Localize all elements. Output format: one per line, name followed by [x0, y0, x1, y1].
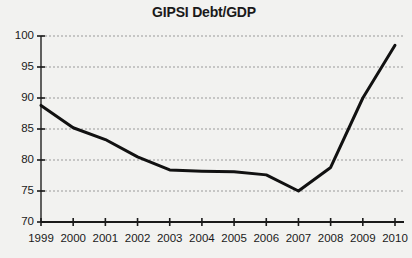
y-tick-label: 75 [0, 184, 34, 196]
y-tick-label: 70 [0, 215, 34, 227]
x-tick-label: 2004 [185, 232, 219, 244]
tick-marks-group [37, 36, 395, 226]
x-tick-label: 2006 [249, 232, 283, 244]
x-tick-label: 2001 [88, 232, 122, 244]
y-tick-label: 85 [0, 122, 34, 134]
x-tick-label: 2007 [281, 232, 315, 244]
y-tick-label: 95 [0, 60, 34, 72]
x-tick-label: 2010 [378, 232, 412, 244]
x-tick-label: 2000 [56, 232, 90, 244]
x-tick-label: 2008 [314, 232, 348, 244]
y-tick-label: 80 [0, 153, 34, 165]
x-tick-label: 2009 [346, 232, 380, 244]
x-tick-label: 1999 [24, 232, 58, 244]
x-tick-label: 2002 [121, 232, 155, 244]
x-tick-label: 2005 [217, 232, 251, 244]
y-tick-label: 90 [0, 91, 34, 103]
x-tick-label: 2003 [153, 232, 187, 244]
gridlines-group [41, 36, 404, 191]
y-tick-label: 100 [0, 29, 34, 41]
